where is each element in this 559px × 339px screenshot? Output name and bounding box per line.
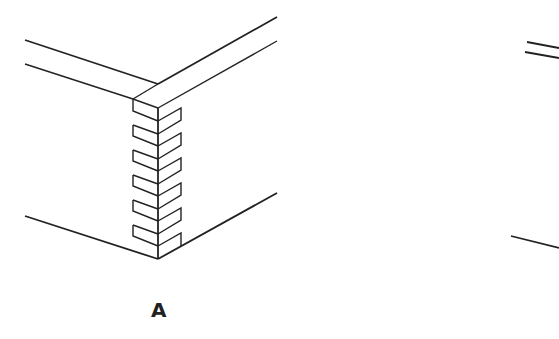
panel-a-label: A: [151, 298, 166, 322]
joint-diagram: [0, 0, 559, 339]
panel-b-drawing: [511, 42, 559, 248]
panel-a-drawing: [25, 17, 277, 259]
